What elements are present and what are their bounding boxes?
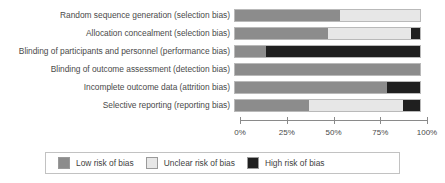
legend-swatch-icon (247, 157, 259, 169)
legend-swatch-icon (58, 157, 70, 169)
chart-row: Blinding of outcome assessment (detectio… (0, 60, 445, 78)
stacked-bar (234, 45, 421, 58)
axis-tick-label: 0% (234, 128, 246, 137)
stacked-bar (234, 27, 421, 40)
legend-label: High risk of bias (265, 158, 325, 168)
bar-segment (235, 28, 328, 39)
chart-rows: Random sequence generation (selection bi… (0, 6, 445, 114)
chart-row: Blinding of participants and personnel (… (0, 42, 445, 60)
row-label: Random sequence generation (selection bi… (0, 10, 234, 20)
chart-row: Selective reporting (reporting bias) (0, 96, 445, 114)
legend-item: Low risk of bias (58, 157, 134, 169)
bar-segment (340, 10, 420, 21)
legend-item: High risk of bias (247, 157, 325, 169)
legend-swatch-icon (146, 157, 158, 169)
stacked-bar (234, 81, 421, 94)
axis-tick (287, 117, 288, 124)
legend-label: Low risk of bias (76, 158, 134, 168)
bar-segment (235, 46, 266, 57)
row-label: Allocation concealment (selection bias) (0, 28, 234, 38)
stacked-bar (234, 99, 421, 112)
bar-segment (266, 46, 420, 57)
legend-item: Unclear risk of bias (146, 157, 235, 169)
row-label: Incomplete outcome data (attrition bias) (0, 82, 234, 92)
axis-tick-label: 25% (279, 128, 295, 137)
axis-tick-label: 50% (325, 128, 341, 137)
stacked-bar (234, 63, 421, 76)
legend-label: Unclear risk of bias (164, 158, 235, 168)
bar-segment (387, 82, 420, 93)
bar-segment (403, 100, 420, 111)
axis-tick-label: 75% (372, 128, 388, 137)
row-label: Selective reporting (reporting bias) (0, 100, 234, 110)
axis-tick (380, 117, 381, 124)
chart-row: Random sequence generation (selection bi… (0, 6, 445, 24)
axis-tick (427, 117, 428, 124)
bar-segment (328, 28, 411, 39)
bar-segment (235, 10, 340, 21)
row-label: Blinding of outcome assessment (detectio… (0, 64, 234, 74)
bar-segment (235, 82, 387, 93)
axis-tick-label: 100% (417, 128, 437, 137)
chart-legend: Low risk of biasUnclear risk of biasHigh… (45, 152, 400, 174)
bar-segment (235, 64, 420, 75)
bar-segment (235, 100, 309, 111)
x-axis: 0%25%50%75%100% (240, 120, 427, 121)
bar-segment (309, 100, 403, 111)
bar-segment (411, 28, 420, 39)
row-label: Blinding of participants and personnel (… (0, 46, 234, 56)
chart-row: Allocation concealment (selection bias) (0, 24, 445, 42)
stacked-bar (234, 9, 421, 22)
axis-tick (240, 117, 241, 124)
axis-tick (334, 117, 335, 124)
chart-row: Incomplete outcome data (attrition bias) (0, 78, 445, 96)
risk-of-bias-chart: Random sequence generation (selection bi… (0, 0, 445, 183)
